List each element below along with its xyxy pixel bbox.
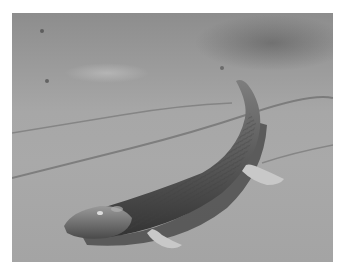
mud-cracks: [12, 29, 333, 178]
creature-eye: [97, 211, 103, 215]
creature-scene: [12, 13, 333, 262]
photograph: [12, 13, 333, 262]
